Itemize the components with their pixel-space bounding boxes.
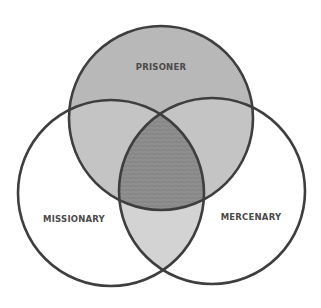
venn-diagram: PRISONER MISSIONARY MERCENARY <box>0 0 321 308</box>
mercenary-label: MERCENARY <box>221 212 282 222</box>
prisoner-label: PRISONER <box>136 62 187 72</box>
missionary-label: MISSIONARY <box>43 214 105 224</box>
